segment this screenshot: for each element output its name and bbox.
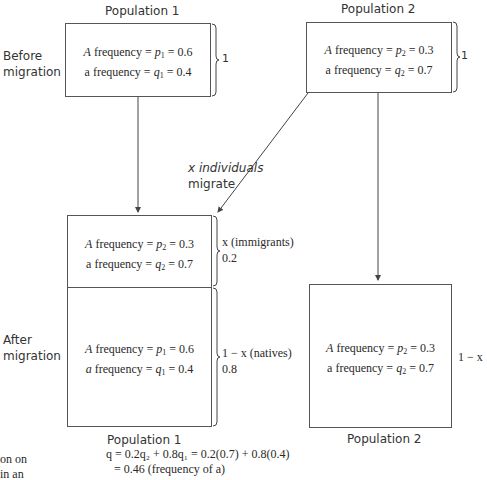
pop1-natives-a-freq: a frequency = q1 = 0.4 <box>68 361 211 381</box>
equation: q = 0.2q₂ + 0.8q₁ = 0.2(0.7) + 0.8(0.4) … <box>106 447 289 477</box>
pop1-natives-freqs: A frequency = p1 = 0.6 a frequency = q1 … <box>68 341 211 381</box>
before-label-line2: migration <box>3 64 61 80</box>
population1-top-title: Population 1 <box>105 4 180 18</box>
brace-pop2-before <box>453 22 460 92</box>
pop1-immigrants-a-freq: a frequency = q2 = 0.7 <box>68 256 211 276</box>
after-migration-label: After migration <box>3 332 61 364</box>
pop2-after-side-label: 1 − x <box>458 350 483 365</box>
population2-bottom-title: Population 2 <box>347 432 422 446</box>
pop1-after-immigrants-box: A frequency = p2 = 0.3 a frequency = q2 … <box>67 215 212 288</box>
pop1-immigrants-A-freq: A frequency = p2 = 0.3 <box>68 236 211 256</box>
migration-label: x individuals migrate <box>188 160 263 192</box>
caption-line1: on on <box>0 452 27 467</box>
pop2-after-freqs: A frequency = p2 = 0.3 a frequency = q2 … <box>310 340 451 380</box>
pop1-before-A-freq: A frequency = p1 = 0.6 <box>66 44 210 64</box>
brace-immigrants <box>213 216 220 286</box>
immigrants-label: x (immigrants) <box>222 234 294 250</box>
pop1-before-brace-label: 1 <box>222 52 229 65</box>
pop1-before-box: A frequency = p1 = 0.6 a frequency = q1 … <box>65 23 211 97</box>
equation-line2: = 0.46 (frequency of a) <box>106 462 289 477</box>
equation-line1: q = 0.2q₂ + 0.8q₁ = 0.2(0.7) + 0.8(0.4) <box>106 447 289 462</box>
population1-bottom-title: Population 1 <box>107 433 182 447</box>
migrate-line1: x individuals <box>188 160 263 176</box>
natives-label: 1 − x (natives) <box>222 345 292 361</box>
pop1-after-natives-box: A frequency = p1 = 0.6 a frequency = q1 … <box>67 287 212 427</box>
pop1-before-freqs: A frequency = p1 = 0.6 a frequency = q1 … <box>66 44 210 84</box>
pop2-before-a-freq: a frequency = q2 = 0.7 <box>307 62 451 82</box>
population2-top-title: Population 2 <box>341 2 416 16</box>
caption-fragment: on on in an <box>0 452 27 480</box>
migrate-text: x individuals <box>188 161 263 175</box>
pop2-after-box: A frequency = p2 = 0.3 a frequency = q2 … <box>309 284 452 428</box>
before-label-line1: Before <box>3 48 61 64</box>
brace-pop1-before <box>212 24 219 96</box>
pop2-before-brace-label: 1 <box>461 49 468 62</box>
pop1-immigrants-freqs: A frequency = p2 = 0.3 a frequency = q2 … <box>68 236 211 276</box>
pop1-natives-A-freq: A frequency = p1 = 0.6 <box>68 341 211 361</box>
natives-brace-label: 1 − x (natives) 0.8 <box>222 345 292 377</box>
immigrants-value: 0.2 <box>222 250 294 266</box>
pop2-before-box: A frequency = p2 = 0.3 a frequency = q2 … <box>306 22 452 93</box>
migrate-line2: migrate <box>188 176 263 192</box>
pop2-after-a-freq: a frequency = q2 = 0.7 <box>310 360 451 380</box>
pop1-before-a-freq: a frequency = q1 = 0.4 <box>66 64 210 84</box>
migration-arrow <box>218 93 308 212</box>
immigrants-brace-label: x (immigrants) 0.2 <box>222 234 294 266</box>
before-migration-label: Before migration <box>3 48 61 80</box>
after-label-line2: migration <box>3 348 61 364</box>
natives-value: 0.8 <box>222 361 292 377</box>
caption-line2: in an <box>0 467 27 480</box>
brace-natives <box>213 288 220 426</box>
pop2-before-A-freq: A frequency = p2 = 0.3 <box>307 42 451 62</box>
pop2-after-A-freq: A frequency = p2 = 0.3 <box>310 340 451 360</box>
pop2-before-freqs: A frequency = p2 = 0.3 a frequency = q2 … <box>307 42 451 82</box>
after-label-line1: After <box>3 332 61 348</box>
